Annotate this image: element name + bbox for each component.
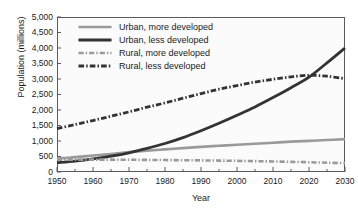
x-tick-label: 1970 bbox=[114, 176, 144, 186]
x-tick-label: 2000 bbox=[222, 176, 252, 186]
x-tick-label: 2020 bbox=[294, 176, 324, 186]
x-tick-label: 2030 bbox=[330, 176, 358, 186]
x-tick-label: 1990 bbox=[186, 176, 216, 186]
x-axis-title: Year bbox=[57, 193, 345, 203]
population-line-chart: 05001,0001,5002,0002,5003,0003,5004,0004… bbox=[0, 0, 358, 213]
x-tick-label: 1980 bbox=[150, 176, 180, 186]
x-tick-label: 1960 bbox=[78, 176, 108, 186]
x-tick-label: 1950 bbox=[42, 176, 72, 186]
axis-ticks-layer bbox=[57, 17, 345, 172]
x-tick-label: 2010 bbox=[258, 176, 288, 186]
y-axis-title: Population (millions) bbox=[16, 0, 26, 132]
